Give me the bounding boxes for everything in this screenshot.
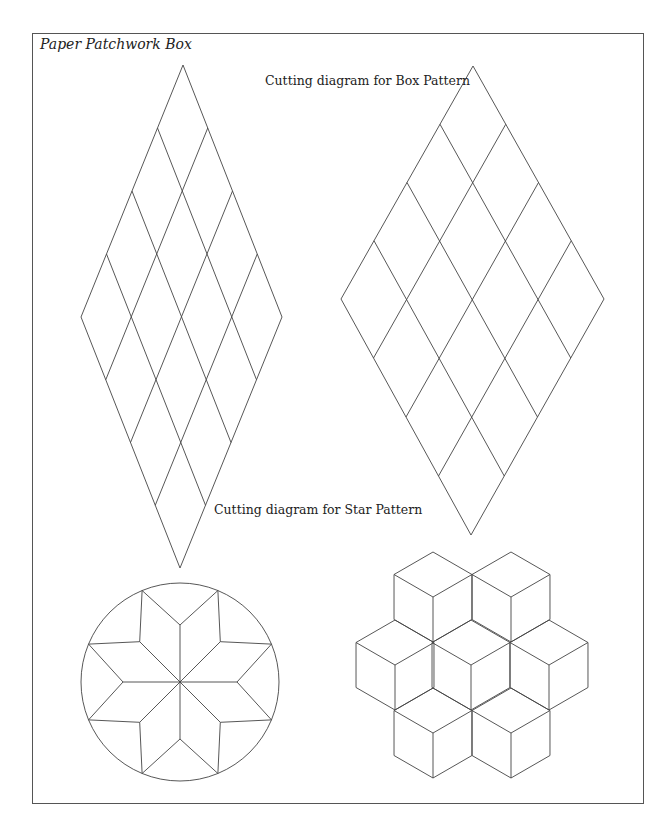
tumbling-blocks-figure: [356, 552, 588, 778]
diagram-canvas: [0, 0, 670, 830]
eight-point-star-figure: [81, 583, 279, 781]
star-cutting-diamond: [81, 65, 282, 568]
page: Paper Patchwork Box Cutting diagram for …: [0, 0, 670, 830]
box-cutting-diamond: [341, 66, 604, 535]
